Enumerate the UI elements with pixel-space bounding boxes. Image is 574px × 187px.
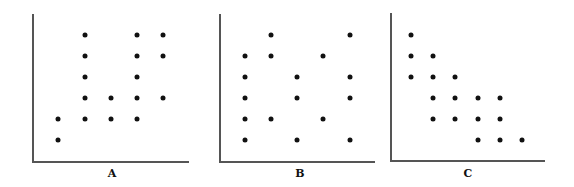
data-point xyxy=(498,96,503,101)
data-point xyxy=(109,96,114,101)
data-point xyxy=(348,138,353,143)
data-point xyxy=(243,75,248,80)
data-point xyxy=(321,117,326,122)
y-axis xyxy=(390,13,392,160)
data-point xyxy=(161,96,166,101)
data-point xyxy=(431,75,436,80)
data-point xyxy=(409,33,414,38)
data-point xyxy=(243,117,248,122)
data-point xyxy=(453,96,458,101)
data-point xyxy=(83,117,88,122)
y-axis xyxy=(32,14,34,161)
data-point xyxy=(348,75,353,80)
data-point xyxy=(135,117,140,122)
data-point xyxy=(83,75,88,80)
data-point xyxy=(243,54,248,59)
data-point xyxy=(520,138,525,143)
data-point xyxy=(295,75,300,80)
data-point xyxy=(295,96,300,101)
data-point xyxy=(161,54,166,59)
data-point xyxy=(83,54,88,59)
data-point xyxy=(295,138,300,143)
data-point xyxy=(498,117,503,122)
data-point xyxy=(431,54,436,59)
data-point xyxy=(56,117,61,122)
data-point xyxy=(135,54,140,59)
data-point xyxy=(83,96,88,101)
data-point xyxy=(321,54,326,59)
data-point xyxy=(431,117,436,122)
data-point xyxy=(498,138,503,143)
data-point xyxy=(135,96,140,101)
data-point xyxy=(453,75,458,80)
x-axis xyxy=(32,161,189,163)
panel-label: A xyxy=(108,167,117,180)
data-point xyxy=(243,96,248,101)
panel-label: B xyxy=(295,167,304,180)
data-point xyxy=(348,33,353,38)
panel-label: C xyxy=(464,167,473,180)
x-axis xyxy=(219,161,375,163)
data-point xyxy=(161,33,166,38)
data-point xyxy=(431,96,436,101)
data-point xyxy=(269,33,274,38)
data-point xyxy=(348,96,353,101)
data-point xyxy=(243,138,248,143)
data-point xyxy=(409,54,414,59)
y-axis xyxy=(219,14,221,161)
data-point xyxy=(56,138,61,143)
data-point xyxy=(476,117,481,122)
data-point xyxy=(409,75,414,80)
data-point xyxy=(269,117,274,122)
data-point xyxy=(269,54,274,59)
x-axis xyxy=(390,160,545,162)
data-point xyxy=(135,33,140,38)
data-point xyxy=(476,138,481,143)
data-point xyxy=(83,33,88,38)
data-point xyxy=(476,96,481,101)
data-point xyxy=(453,117,458,122)
data-point xyxy=(109,117,114,122)
data-point xyxy=(135,75,140,80)
